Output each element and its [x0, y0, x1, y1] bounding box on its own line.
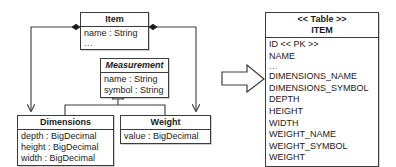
table-column: HEIGHT	[266, 106, 378, 118]
uml-class-dimensions[interactable]: Dimensions depth : BigDecimal height : B…	[17, 115, 114, 166]
composition-item-dimensions	[31, 24, 80, 111]
uml-attribute: symbol : String	[101, 85, 168, 96]
table-column: DEPTH	[266, 94, 378, 106]
table-column: ID << PK >>	[266, 39, 378, 51]
table-column: WIDTH	[266, 118, 378, 130]
uml-class-item-attributes: name : String ...	[81, 27, 148, 49]
table-column-ellipsis: ...	[266, 62, 378, 71]
table-name: ITEM	[268, 25, 376, 36]
uml-class-item-name: Item	[81, 13, 148, 27]
uml-attribute: value : BigDecimal	[121, 131, 210, 142]
uml-class-weight-attributes: value : BigDecimal	[121, 130, 210, 143]
table-column: WEIGHT_SYMBOL	[266, 141, 378, 153]
table-column: WEIGHT	[266, 152, 378, 164]
uml-attribute: name : String	[101, 74, 168, 85]
uml-attribute: height : BigDecimal	[18, 142, 113, 153]
uml-class-dimensions-name: Dimensions	[18, 116, 113, 130]
table-column: WEIGHT_NAME	[266, 129, 378, 141]
table-column: DIMENSIONS_NAME	[266, 71, 378, 83]
uml-class-dimensions-attributes: depth : BigDecimal height : BigDecimal w…	[18, 130, 113, 165]
table-stereotype: << Table >>	[268, 14, 376, 25]
uml-attribute-ellipsis: ...	[81, 39, 148, 48]
transform-block-arrow-icon	[222, 65, 264, 92]
relational-table-columns: ID << PK >> NAME ... DIMENSIONS_NAME DIM…	[266, 38, 378, 166]
filled-diamond-icon	[72, 24, 80, 30]
uml-attribute: depth : BigDecimal	[18, 131, 113, 142]
uml-class-measurement-attributes: name : String symbol : String	[101, 73, 168, 97]
relational-table-item[interactable]: << Table >> ITEM ID << PK >> NAME ... DI…	[265, 12, 379, 167]
uml-class-weight-name: Weight	[121, 116, 210, 130]
table-column: NAME	[266, 51, 378, 63]
filled-diamond-icon	[149, 24, 157, 30]
uml-attribute: width : BigDecimal	[18, 153, 113, 164]
uml-class-measurement[interactable]: Measurement name : String symbol : Strin…	[100, 58, 169, 98]
uml-class-weight[interactable]: Weight value : BigDecimal	[120, 115, 211, 144]
table-column: DIMENSIONS_SYMBOL	[266, 83, 378, 95]
uml-class-item[interactable]: Item name : String ...	[80, 12, 149, 50]
relational-table-header: << Table >> ITEM	[266, 13, 378, 38]
uml-class-measurement-name: Measurement	[101, 59, 168, 73]
